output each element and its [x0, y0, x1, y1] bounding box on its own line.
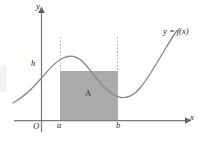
- area-label: A: [85, 89, 91, 98]
- y-axis-label: y: [36, 2, 40, 11]
- origin-label: O: [33, 122, 39, 131]
- x-axis-label: x: [190, 113, 194, 122]
- curve-equation-label: y = f(x): [163, 27, 189, 36]
- x-tick-label-a: a: [57, 121, 61, 130]
- figure-canvas: [0, 0, 202, 146]
- area-under-curve-figure: y x O a b h A y = f(x): [0, 0, 202, 146]
- height-label-h: h: [31, 59, 35, 68]
- x-tick-label-b: b: [116, 121, 120, 130]
